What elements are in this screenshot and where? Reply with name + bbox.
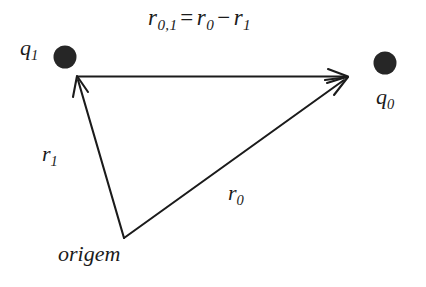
vector-label-r1-symbol: r bbox=[42, 141, 51, 166]
charge-dot-q1 bbox=[54, 46, 77, 69]
vector-label-r0: r0 bbox=[228, 182, 244, 204]
charge-label-q0-symbol: q bbox=[376, 84, 387, 109]
equation-term1-subscript: 0 bbox=[206, 16, 214, 33]
equation-term1-symbol: r bbox=[197, 5, 206, 30]
origin-label: origem bbox=[58, 243, 120, 265]
charge-label-q0: q0 bbox=[376, 86, 395, 108]
vector-diagram: r0,1=r0−r1 q1 q0 r1 r0 origem bbox=[0, 0, 426, 287]
equation-equals: = bbox=[177, 5, 196, 30]
charge-label-q1-symbol: q bbox=[20, 35, 31, 60]
equation-term2-subscript: 1 bbox=[243, 16, 251, 33]
charge-dot-q0 bbox=[374, 52, 397, 75]
vector-r1-shaft bbox=[78, 80, 124, 238]
charge-label-q1-subscript: 1 bbox=[31, 47, 39, 63]
vector-label-r0-symbol: r bbox=[228, 180, 237, 205]
equation: r0,1=r0−r1 bbox=[148, 6, 251, 29]
equation-term2-symbol: r bbox=[234, 5, 243, 30]
charge-label-q1: q1 bbox=[20, 37, 39, 59]
vector-r0-shaft bbox=[124, 80, 344, 238]
equation-operator: − bbox=[214, 5, 233, 30]
equation-lhs-subscript: 0,1 bbox=[157, 16, 177, 33]
vector-label-r0-subscript: 0 bbox=[237, 192, 245, 208]
charge-label-q0-subscript: 0 bbox=[387, 96, 395, 112]
vector-label-r1-subscript: 1 bbox=[51, 153, 59, 169]
vector-label-r1: r1 bbox=[42, 143, 58, 165]
